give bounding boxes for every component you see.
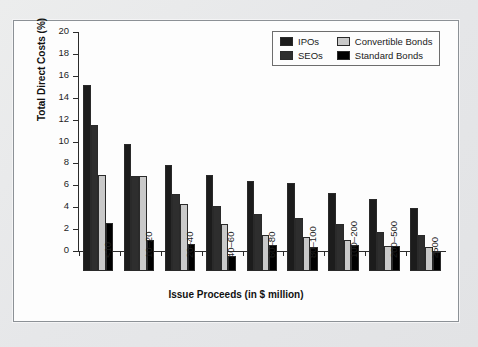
bar-seos[interactable]	[254, 214, 262, 271]
bar-ipos[interactable]	[124, 144, 132, 271]
bar-ipos[interactable]	[410, 208, 418, 272]
y-axis-tick-label: 18	[58, 47, 69, 59]
y-axis-tick: 14	[73, 98, 78, 99]
x-axis-tick	[120, 252, 121, 256]
x-axis-tick	[283, 252, 284, 256]
y-axis-tick-label: 8	[64, 156, 69, 168]
x-axis-tick	[202, 252, 203, 256]
x-axis-tick	[324, 252, 325, 256]
y-axis-tick-label: 20	[58, 25, 69, 37]
y-axis-tick: 16	[73, 76, 78, 77]
y-axis-tick-label: 2	[64, 222, 69, 234]
y-axis-tick-label: 14	[58, 91, 69, 103]
page-background: Total Direct Costs (%) Issue Proceeds (i…	[0, 0, 478, 347]
y-axis-tick: 18	[73, 54, 78, 55]
bar-ipos[interactable]	[369, 199, 377, 271]
bar-ipos[interactable]	[206, 175, 214, 271]
y-axis-tick-label: 4	[64, 200, 69, 212]
y-axis-tick-label: 6	[64, 178, 69, 190]
x-axis-category-label: 10–20	[143, 232, 154, 258]
bar-seos[interactable]	[418, 235, 426, 271]
x-axis-category-label: 60–80	[266, 232, 277, 258]
x-axis-tick	[365, 252, 366, 256]
y-axis-tick: 8	[73, 163, 78, 164]
bar-seos[interactable]	[377, 232, 385, 271]
bar-seos[interactable]	[131, 176, 139, 271]
y-axis-tick-label: 16	[58, 69, 69, 81]
x-axis-category-label: 200–500	[388, 221, 399, 258]
plot-area: 02468101214161820 <1010–2020–4040–6060–8…	[78, 32, 446, 271]
x-axis-tick	[79, 252, 80, 256]
y-axis-tick: 0	[73, 251, 78, 252]
bar-seos[interactable]	[295, 218, 303, 271]
y-axis-tick-label: 12	[58, 113, 69, 125]
y-axis-tick: 20	[73, 32, 78, 33]
y-axis-tick-label: 10	[58, 135, 69, 147]
bar-seos[interactable]	[91, 125, 99, 271]
bar-seos[interactable]	[213, 206, 221, 271]
bar-ipos[interactable]	[83, 85, 91, 271]
bar-ipos[interactable]	[165, 165, 173, 271]
x-axis-category-label: ≥500	[429, 237, 440, 258]
x-axis-category-label: 20–40	[184, 232, 195, 258]
bar-ipos[interactable]	[247, 181, 255, 271]
x-axis-tick	[243, 252, 244, 256]
bar-seos[interactable]	[336, 224, 344, 271]
y-axis-line	[78, 32, 79, 252]
x-axis-title: Issue Proceeds (in $ million)	[14, 289, 458, 300]
bar-ipos[interactable]	[328, 193, 336, 271]
bar-group	[83, 52, 113, 271]
x-axis-tick	[161, 252, 162, 256]
bar-seos[interactable]	[172, 194, 180, 271]
y-axis-tick-label: 0	[64, 244, 69, 256]
x-axis-category-label: 100–200	[348, 221, 359, 258]
y-axis-tick: 10	[73, 142, 78, 143]
y-axis-tick: 12	[73, 120, 78, 121]
y-axis-tick: 2	[73, 229, 78, 230]
chart-panel: Total Direct Costs (%) Issue Proceeds (i…	[13, 20, 459, 322]
y-axis-tick: 4	[73, 207, 78, 208]
y-axis-title: Total Direct Costs (%)	[36, 18, 47, 121]
x-axis-category-label: 40–60	[225, 232, 236, 258]
x-axis-category-label: <10	[102, 242, 113, 258]
bar-ipos[interactable]	[287, 183, 295, 271]
y-axis-tick: 6	[73, 185, 78, 186]
x-axis-tick	[406, 252, 407, 256]
x-axis-category-label: 80–100	[307, 226, 318, 258]
